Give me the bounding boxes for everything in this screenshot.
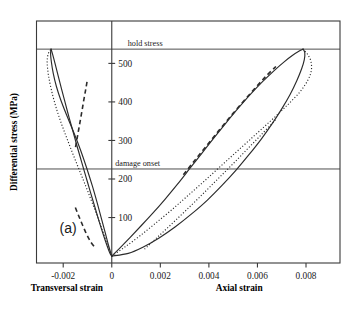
y-tick-label-100: 100: [118, 213, 132, 223]
x-tick-label-2: 0.002: [150, 271, 171, 281]
y-tick-label-500: 500: [118, 59, 132, 69]
curve-axial-unloading-solid: [112, 49, 305, 256]
curve-axial-loading-solid: [112, 49, 303, 256]
chart-text-group: 100200300400500-0.00200.0020.0040.0060.0…: [9, 39, 317, 293]
y-tick-label-200: 200: [118, 174, 132, 184]
curve-transversal-lower-dashed: [75, 208, 95, 249]
annotation-damage-onset: damage onset: [115, 159, 161, 168]
x-tick-label-4: 0.006: [247, 271, 268, 281]
curve-axial-secondary-dotted: [145, 120, 276, 249]
data-curves-group: [47, 49, 311, 256]
tick-marks-group: [63, 63, 306, 267]
curve-transversal-dashed: [75, 82, 87, 148]
x-tick-label-3: 0.004: [198, 271, 219, 281]
x-tick-label-0: -0.002: [51, 271, 75, 281]
xaxis-title-transversal: Transversal strain: [31, 283, 104, 293]
x-tick-label-1: 0: [109, 271, 114, 281]
plot-border: [37, 21, 341, 263]
x-tick-label-5: 0.008: [296, 271, 317, 281]
reference-lines-group: [37, 49, 341, 169]
y-tick-label-300: 300: [118, 136, 132, 146]
panel-label: (a): [60, 220, 77, 236]
chart-figure: 100200300400500-0.00200.0020.0040.0060.0…: [0, 0, 355, 329]
yaxis-title: Differential stress (MPa): [9, 93, 20, 191]
annotation-hold-stress: hold stress: [128, 39, 163, 48]
xaxis-title-axial: Axial strain: [216, 283, 264, 293]
plot-frame-group: [37, 21, 341, 263]
y-tick-label-400: 400: [118, 97, 132, 107]
stress-strain-plot: 100200300400500-0.00200.0020.0040.0060.0…: [0, 0, 355, 329]
